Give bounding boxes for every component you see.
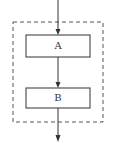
arrowhead-icon xyxy=(56,29,61,35)
block-a-label: A xyxy=(26,36,90,56)
arrowhead-icon xyxy=(56,135,61,142)
flow-diagram xyxy=(0,0,117,150)
block-b-label: B xyxy=(26,88,90,108)
